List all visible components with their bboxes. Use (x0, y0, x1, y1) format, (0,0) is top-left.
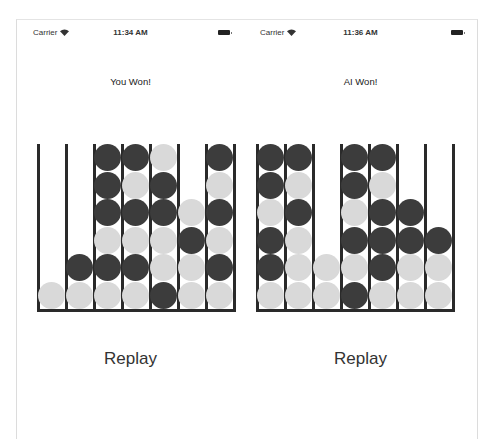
light-disc (150, 254, 177, 281)
light-disc (122, 172, 149, 199)
dark-disc (122, 254, 149, 281)
dark-disc (94, 144, 121, 171)
column-divider (368, 144, 371, 312)
dark-disc (150, 282, 177, 309)
light-disc (150, 144, 177, 171)
light-disc (313, 254, 340, 281)
column-divider (312, 144, 315, 312)
status-bar: Carrier 11:36 AM (244, 28, 477, 42)
column-divider (452, 144, 455, 312)
dark-disc (285, 199, 312, 226)
battery-icon (218, 30, 230, 35)
light-disc (397, 282, 424, 309)
dark-disc (369, 227, 396, 254)
column-divider (396, 144, 399, 312)
light-disc (206, 172, 233, 199)
dark-disc (341, 172, 368, 199)
dark-disc (150, 199, 177, 226)
dark-disc (66, 254, 93, 281)
column-divider (149, 144, 152, 312)
column-divider (93, 144, 96, 312)
light-disc (178, 282, 205, 309)
column-divider (340, 144, 343, 312)
light-disc (425, 254, 452, 281)
light-disc (122, 282, 149, 309)
dark-disc (369, 254, 396, 281)
dark-disc (257, 254, 284, 281)
dark-disc (206, 199, 233, 226)
column-divider (256, 144, 259, 312)
dark-disc (257, 172, 284, 199)
game-result-label: AI Won! (244, 76, 477, 87)
game-screen-ai-won: Carrier 11:36 AM AI Won! Replay (244, 19, 478, 439)
replay-button[interactable]: Replay (17, 348, 244, 370)
light-disc (257, 282, 284, 309)
dark-disc (94, 254, 121, 281)
dark-disc (341, 227, 368, 254)
dark-disc (122, 199, 149, 226)
light-disc (397, 254, 424, 281)
status-bar: Carrier 11:34 AM (17, 28, 244, 42)
light-disc (369, 282, 396, 309)
dark-disc (341, 282, 368, 309)
light-disc (38, 282, 65, 309)
board-floor (37, 309, 235, 312)
light-disc (206, 227, 233, 254)
game-screen-you-won: Carrier 11:34 AM You Won! Replay (16, 19, 244, 439)
dark-disc (94, 199, 121, 226)
light-disc (257, 199, 284, 226)
replay-button[interactable]: Replay (244, 348, 477, 370)
board-floor (256, 309, 454, 312)
dark-disc (397, 199, 424, 226)
battery-icon (451, 30, 463, 35)
light-disc (150, 227, 177, 254)
column-divider (284, 144, 287, 312)
column-divider (233, 144, 236, 312)
dark-disc (397, 227, 424, 254)
dark-disc (285, 144, 312, 171)
game-board[interactable] (37, 144, 233, 312)
dark-disc (122, 144, 149, 171)
light-disc (285, 282, 312, 309)
dark-disc (150, 172, 177, 199)
light-disc (178, 199, 205, 226)
dark-disc (178, 227, 205, 254)
dark-disc (425, 227, 452, 254)
dark-disc (257, 144, 284, 171)
light-disc (369, 172, 396, 199)
light-disc (285, 254, 312, 281)
light-disc (285, 172, 312, 199)
column-divider (121, 144, 124, 312)
light-disc (122, 227, 149, 254)
clock: 11:34 AM (17, 28, 244, 37)
light-disc (341, 254, 368, 281)
column-divider (37, 144, 40, 312)
dark-disc (206, 144, 233, 171)
dark-disc (341, 144, 368, 171)
dark-disc (94, 172, 121, 199)
light-disc (66, 282, 93, 309)
game-result-label: You Won! (17, 76, 244, 87)
light-disc (285, 227, 312, 254)
light-disc (206, 282, 233, 309)
dark-disc (369, 144, 396, 171)
column-divider (424, 144, 427, 312)
game-board[interactable] (256, 144, 452, 312)
clock: 11:36 AM (244, 28, 477, 37)
light-disc (94, 282, 121, 309)
column-divider (65, 144, 68, 312)
dark-disc (206, 254, 233, 281)
dark-disc (257, 227, 284, 254)
light-disc (313, 282, 340, 309)
light-disc (425, 282, 452, 309)
light-disc (178, 254, 205, 281)
dark-disc (369, 199, 396, 226)
light-disc (94, 227, 121, 254)
column-divider (177, 144, 180, 312)
light-disc (341, 199, 368, 226)
column-divider (205, 144, 208, 312)
